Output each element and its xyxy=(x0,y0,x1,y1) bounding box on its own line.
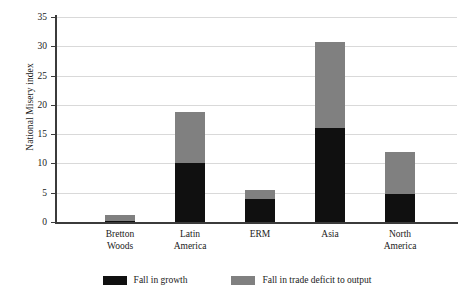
y-axis-tick xyxy=(51,193,56,194)
chart-figure: National Misery index 05101520253035 Bre… xyxy=(0,0,474,299)
bar-latin-america xyxy=(175,112,205,222)
bar-segment-fall-in-trade-deficit-to-output xyxy=(105,215,135,221)
bar-segment-fall-in-trade-deficit-to-output xyxy=(175,112,205,164)
legend-label-fall-in-trade-deficit-to-output: Fall in trade deficit to output xyxy=(262,275,371,286)
y-axis-tick xyxy=(51,163,56,164)
y-axis-tick xyxy=(51,222,56,223)
x-axis-line xyxy=(55,222,458,224)
y-axis-tick xyxy=(51,105,56,106)
y-axis-tick-label: 20 xyxy=(21,100,47,110)
legend-swatch-fall-in-growth xyxy=(103,276,127,285)
bar-segment-fall-in-growth xyxy=(385,194,415,222)
legend-item-fall-in-trade-deficit-to-output: Fall in trade deficit to output xyxy=(231,275,371,286)
chart-legend: Fall in growth Fall in trade deficit to … xyxy=(0,270,474,290)
y-axis-tick-label: 25 xyxy=(21,71,47,81)
y-axis-tick xyxy=(51,46,56,47)
bar-erm xyxy=(245,190,275,222)
y-axis-tick xyxy=(51,134,56,135)
y-axis-tick xyxy=(51,76,56,77)
bar-segment-fall-in-growth xyxy=(105,221,135,222)
y-axis-tick-label: 30 xyxy=(21,41,47,51)
y-axis-tick-label: 15 xyxy=(21,129,47,139)
y-axis-tick xyxy=(51,17,56,18)
bar-segment-fall-in-growth xyxy=(315,128,345,222)
bar-segment-fall-in-trade-deficit-to-output xyxy=(315,42,345,128)
bar-segment-fall-in-growth xyxy=(245,199,275,222)
bar-segment-fall-in-trade-deficit-to-output xyxy=(245,190,275,199)
y-axis-tick-label: 0 xyxy=(21,217,47,227)
bar-asia xyxy=(315,42,345,222)
plot-area xyxy=(57,17,457,222)
y-axis-tick-label: 5 xyxy=(21,188,47,198)
x-axis-tick-label: NorthAmerica xyxy=(355,228,445,252)
legend-swatch-fall-in-trade-deficit-to-output xyxy=(231,276,255,285)
bar-bretton-woods xyxy=(105,215,135,222)
y-axis-tick-label: 35 xyxy=(21,12,47,22)
legend-item-fall-in-growth: Fall in growth xyxy=(103,275,188,286)
legend-label-fall-in-growth: Fall in growth xyxy=(134,275,188,286)
bar-segment-fall-in-growth xyxy=(175,163,205,222)
bar-north-america xyxy=(385,152,415,222)
y-axis-tick-label: 10 xyxy=(21,158,47,168)
bar-segment-fall-in-trade-deficit-to-output xyxy=(385,152,415,194)
